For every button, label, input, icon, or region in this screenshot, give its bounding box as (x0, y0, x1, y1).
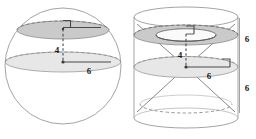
upper-disc-center-point (62, 28, 64, 30)
sphere-height-label: 4 (55, 45, 60, 55)
cylinder-upper-side-label: 6 (245, 34, 250, 44)
cone-lower-base-dashed (140, 104, 232, 113)
cylinder-top-ellipse (134, 7, 238, 27)
sphere-center-point (61, 60, 64, 63)
cylinder-cone-figure: 4 6 6 6 (134, 7, 250, 128)
sphere-radius-label: 6 (87, 66, 92, 76)
cylinder-center-point (184, 65, 187, 68)
cylinder-radius-label: 6 (207, 71, 212, 81)
cylinder-lower-side-label: 6 (245, 83, 250, 93)
cylinder-height-label: 4 (178, 50, 183, 60)
diagram-canvas: 4 6 (0, 0, 256, 139)
sphere-figure: 4 6 (5, 8, 121, 124)
geometry-diagram: 4 6 (0, 0, 256, 139)
cylinder-bottom-front (134, 118, 238, 128)
